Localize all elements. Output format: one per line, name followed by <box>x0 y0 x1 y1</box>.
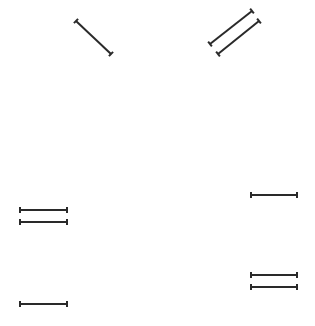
line-segment-right-single <box>251 192 297 198</box>
segment-line <box>210 11 252 44</box>
line-segment-right-pair-bottom <box>251 284 297 290</box>
segment-line <box>76 21 111 54</box>
line-segment-diag-3 <box>216 19 261 57</box>
line-segment-canvas <box>0 0 315 326</box>
segment-line <box>218 21 259 54</box>
line-segment-diag-1 <box>74 19 113 56</box>
line-segment-diag-2 <box>208 9 254 47</box>
line-segment-left-pair-top <box>20 207 67 213</box>
line-segment-bottom-left <box>20 301 67 307</box>
line-segment-left-pair-bottom <box>20 219 67 225</box>
line-segment-right-pair-top <box>251 272 297 278</box>
